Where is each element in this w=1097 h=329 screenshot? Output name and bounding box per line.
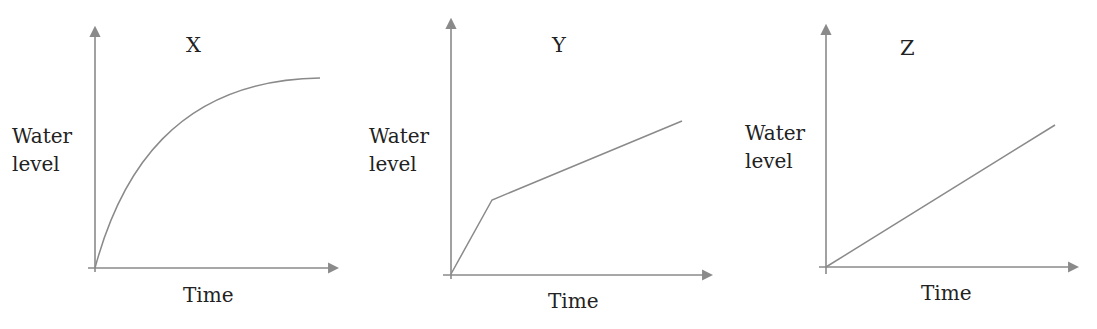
chart-z-title: Z xyxy=(900,36,915,60)
chart-z-line xyxy=(826,125,1055,267)
chart-x-curve xyxy=(95,78,320,268)
chart-y-title: Y xyxy=(552,33,566,57)
chart-x-ylabel-line2: level xyxy=(12,152,92,176)
chart-y-ylabel-line1: Water xyxy=(369,124,449,148)
chart-x-title: X xyxy=(186,33,201,57)
chart-x xyxy=(88,28,337,272)
charts-canvas xyxy=(0,0,1097,329)
chart-y-line xyxy=(451,121,682,274)
chart-y xyxy=(443,20,711,279)
chart-x-ylabel-line1: Water xyxy=(12,124,92,148)
chart-z-ylabel-line2: level xyxy=(745,149,825,173)
chart-y-xlabel: Time xyxy=(548,289,599,313)
chart-y-ylabel-line2: level xyxy=(369,152,449,176)
chart-z xyxy=(819,26,1077,274)
chart-z-xlabel: Time xyxy=(921,281,972,305)
chart-z-ylabel-line1: Water xyxy=(745,121,825,145)
chart-x-xlabel: Time xyxy=(183,283,234,307)
